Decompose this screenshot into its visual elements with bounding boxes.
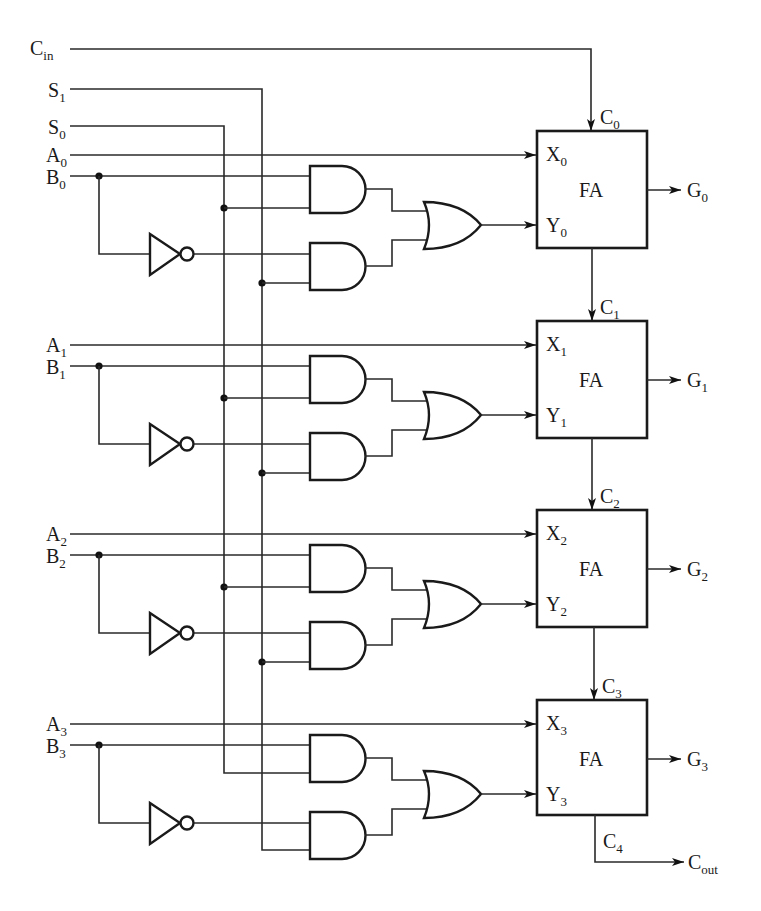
s1-wire: [70, 89, 310, 850]
b3-to-inverter-wire: [99, 745, 150, 823]
c4-label: C4: [603, 830, 623, 856]
and-upper-out-wire: [365, 379, 428, 401]
c0-label: C0: [600, 106, 620, 132]
inverter-gate: [150, 424, 180, 465]
inverter-bubble: [181, 627, 194, 640]
and-lower-out-wire: [365, 240, 428, 266]
b2-to-inverter-wire: [99, 555, 150, 633]
s1-label: S1: [48, 79, 66, 105]
and-gate-upper: [310, 166, 366, 213]
stage-0: A0 B0 X0 Y0 FA G0 C0: [46, 106, 708, 290]
cin-wire: [70, 49, 591, 131]
inverter-gate: [150, 234, 180, 275]
cin-input: Cin: [30, 37, 591, 131]
c1-label: C1: [600, 296, 620, 322]
cin-label: Cin: [30, 37, 54, 63]
and-lower-out-wire: [365, 619, 428, 645]
g3-label: G3: [687, 748, 708, 774]
and-gate-lower: [310, 622, 366, 669]
or-gate: [424, 581, 481, 628]
inverter-gate: [150, 613, 180, 654]
and-gate-lower: [310, 812, 366, 859]
c3-label: C3: [602, 675, 622, 701]
stage-2: A2 B2 X2 Y2 FA G2 C2: [46, 485, 708, 669]
arithmetic-circuit-diagram: Cin S1 S0 A0 B0 X0 Y0 FA G0: [0, 0, 761, 911]
fa-label: FA: [579, 179, 604, 201]
g1-label: G1: [687, 369, 708, 395]
inverter-bubble: [181, 248, 194, 261]
and-gate-upper: [310, 735, 366, 782]
and-gate-lower: [310, 433, 366, 480]
g0-label: G0: [687, 179, 708, 205]
and-upper-out-wire: [365, 568, 428, 590]
g2-label: G2: [687, 558, 708, 584]
and-gate-upper: [310, 356, 366, 403]
and-upper-out-wire: [365, 189, 428, 211]
or-gate: [424, 392, 481, 439]
cout-label: Cout: [688, 851, 718, 877]
and-upper-out-wire: [365, 758, 428, 780]
b1-to-inverter-wire: [99, 366, 150, 444]
c2-label: C2: [600, 485, 620, 511]
inverter-bubble: [181, 438, 194, 451]
and-gate-upper: [310, 545, 366, 592]
and-lower-out-wire: [365, 809, 428, 835]
s0-label: S0: [48, 116, 66, 142]
b0-to-inverter-wire: [99, 176, 150, 254]
fa-label: FA: [579, 558, 604, 580]
and-lower-out-wire: [365, 430, 428, 456]
fa-label: FA: [579, 748, 604, 770]
or-gate: [424, 771, 481, 818]
stage-1: A1 B1 X1 Y1 FA G1 C1: [46, 296, 708, 480]
fa-label: FA: [579, 369, 604, 391]
s1-input: S1: [48, 79, 310, 850]
or-gate: [424, 202, 481, 249]
inverter-gate: [150, 803, 180, 844]
inverter-bubble: [181, 817, 194, 830]
and-gate-lower: [310, 243, 366, 290]
